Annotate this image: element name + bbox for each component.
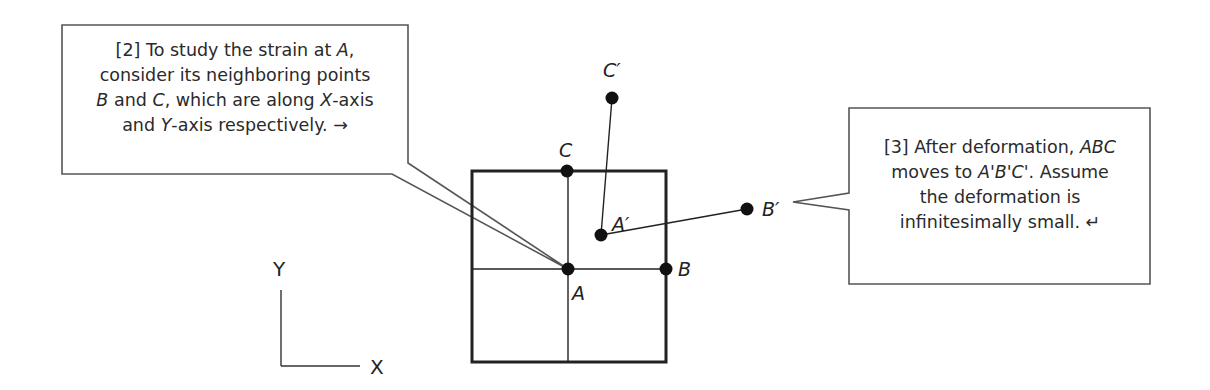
left-callout-line: consider its neighboring points [66,63,404,88]
right-callout-text: [3] After deformation, ABC moves to A'B'… [852,135,1148,235]
point-b [660,263,673,276]
point-c-prime [606,92,619,105]
left-callout-text: [2] To study the strain at A, consider i… [66,38,404,138]
point-a [562,263,575,276]
label-c: C [559,139,573,161]
left-callout-line: and Y-axis respectively. → [66,113,404,138]
right-callout-line: moves to A'B'C'. Assume [852,160,1148,185]
left-callout-line: [2] To study the strain at A, [66,38,404,63]
left-callout-line: B and C, which are along X-axis [66,88,404,113]
right-callout-line: [3] After deformation, ABC [852,135,1148,160]
label-a-prime: A′ [610,213,630,235]
right-callout-line: infinitesimally small. ↵ [852,210,1148,235]
label-b: B [678,258,691,280]
return-arrow-icon: ↵ [1086,212,1101,232]
segment-a-prime-c-prime [601,98,612,235]
label-b-prime: B′ [762,198,780,220]
label-c-prime: C′ [603,59,621,81]
point-a-prime [595,229,608,242]
right-arrow-icon: → [333,115,348,135]
point-b-prime [741,203,754,216]
right-callout-line: the deformation is [852,185,1148,210]
label-a: A [570,282,585,304]
x-axis-label: X [370,355,384,379]
y-axis-label: Y [272,257,286,281]
point-c [561,165,574,178]
